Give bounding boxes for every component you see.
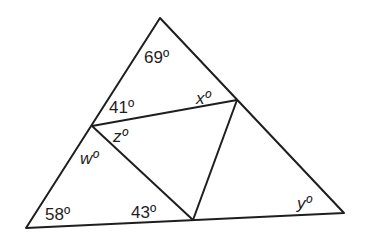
angle-label-x: xº — [195, 89, 212, 108]
angle-label-w: wº — [80, 149, 99, 168]
angle-label-y: yº — [296, 194, 313, 213]
triangle-diagram: 69º 41º xº zº wº 58º 43º yº — [0, 0, 365, 241]
angle-label-69: 69º — [144, 48, 169, 67]
angle-label-41: 41º — [109, 98, 134, 117]
angle-label-z: zº — [112, 127, 129, 146]
angle-label-43: 43º — [131, 203, 156, 222]
segment-right-side-to-base — [193, 100, 237, 220]
angle-label-58: 58º — [45, 205, 70, 224]
